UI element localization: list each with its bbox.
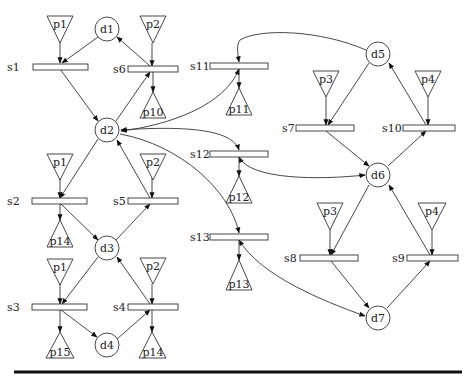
input-p3-s8[interactable]: p3 — [317, 203, 343, 230]
place-d2[interactable]: d2 — [95, 118, 119, 142]
transition-s13[interactable]: s13 — [190, 231, 268, 244]
place-label: d3 — [100, 242, 114, 255]
input-label: p3 — [319, 73, 333, 86]
arc-d4-s4 — [117, 310, 150, 339]
arc-d2-s13 — [120, 134, 239, 233]
transition-label: s9 — [392, 252, 405, 265]
output-label: p11 — [228, 103, 249, 116]
place-label: d1 — [100, 23, 114, 36]
input-label: p2 — [146, 18, 160, 31]
input-p3-s7[interactable]: p3 — [313, 71, 339, 97]
transition-label: s12 — [190, 148, 210, 161]
input-p2-s5[interactable]: p2 — [140, 154, 166, 180]
input-p4-s9[interactable]: p4 — [418, 203, 446, 230]
place-label: d6 — [371, 169, 385, 182]
transition-s2[interactable]: s2 — [7, 195, 87, 208]
arc-d3-s5 — [116, 204, 150, 240]
transition-s10[interactable]: s10 — [382, 122, 455, 135]
input-label: p1 — [53, 156, 67, 169]
output-p10-s6[interactable]: p10 — [140, 92, 166, 119]
output-label: p15 — [49, 346, 70, 359]
input-label: p2 — [146, 260, 160, 273]
output-p14-s4[interactable]: p14 — [139, 332, 166, 359]
input-label: p4 — [425, 205, 439, 218]
transition-s12[interactable]: s12 — [190, 148, 268, 161]
arc-d7-s9 — [387, 261, 430, 308]
input-p1-s3[interactable]: p1 — [47, 259, 73, 285]
output-label: p12 — [228, 191, 249, 204]
arc-s9-d6 — [389, 185, 430, 255]
arc-s1-d2 — [60, 69, 98, 121]
transition-s7[interactable]: s7 — [282, 122, 354, 135]
arc-d2-s12 — [121, 128, 239, 150]
output-p12-s12[interactable]: p12 — [226, 176, 252, 204]
place-d3[interactable]: d3 — [95, 236, 119, 260]
arc-d1-s1 — [62, 37, 98, 63]
input-label: p1 — [53, 261, 67, 274]
input-label: p4 — [421, 73, 435, 86]
transition-label: s2 — [7, 195, 20, 208]
transition-label: s6 — [113, 63, 126, 76]
transition-label: s13 — [190, 231, 210, 244]
input-p1-s2[interactable]: p1 — [47, 154, 73, 180]
arc-d6-s8 — [331, 185, 369, 255]
transition-label: s8 — [284, 252, 297, 265]
transition-label: s11 — [190, 60, 210, 73]
arc-s11-d2 — [121, 69, 239, 131]
transition-s9[interactable]: s9 — [392, 252, 458, 265]
transition-label: s4 — [113, 301, 126, 314]
place-d4[interactable]: d4 — [95, 333, 119, 357]
place-d1[interactable]: d1 — [95, 17, 119, 41]
transition-s4[interactable]: s4 — [113, 301, 178, 314]
arc-s5-d2 — [117, 140, 150, 198]
place-label: d7 — [371, 312, 385, 325]
input-p1-s1[interactable]: p1 — [47, 16, 73, 43]
arc-s12-d6 — [239, 157, 365, 178]
transition-label: s3 — [7, 301, 20, 314]
petri-net-diagram: s1 s6 s2 s5 s3 s4 s11 s12 — [0, 0, 472, 382]
input-p2-s6[interactable]: p2 — [140, 16, 166, 43]
output-label: p13 — [228, 278, 249, 291]
input-p4-s10[interactable]: p4 — [415, 71, 441, 97]
output-p15-s3[interactable]: p15 — [46, 332, 74, 359]
place-d6[interactable]: d6 — [366, 163, 390, 187]
place-label: d4 — [100, 339, 114, 352]
output-p13-s13[interactable]: p13 — [226, 260, 252, 291]
transition-s3[interactable]: s3 — [7, 301, 87, 314]
transition-label: s1 — [7, 61, 20, 74]
output-p14-s2[interactable]: p14 — [47, 220, 73, 248]
place-label: d5 — [371, 48, 385, 61]
transition-label: s7 — [282, 122, 295, 135]
arc-d6-s10 — [388, 131, 426, 166]
place-label: d2 — [100, 124, 114, 137]
transition-s11[interactable]: s11 — [190, 60, 268, 73]
input-p2-s4[interactable]: p2 — [140, 258, 166, 284]
arc-d5-s11 — [238, 33, 366, 62]
transition-s1[interactable]: s1 — [7, 61, 88, 74]
output-label: p14 — [142, 346, 163, 359]
arc-s3-d4 — [61, 310, 97, 337]
place-d5[interactable]: d5 — [366, 42, 390, 66]
arc-s13-d7 — [239, 240, 365, 316]
transition-label: s5 — [113, 195, 126, 208]
transition-s8[interactable]: s8 — [284, 252, 358, 265]
output-label: p14 — [49, 235, 70, 248]
output-p11-s11[interactable]: p11 — [226, 88, 252, 116]
transition-s6[interactable]: s6 — [113, 63, 178, 76]
arc-s8-d7 — [331, 261, 369, 308]
transition-s5[interactable]: s5 — [113, 195, 178, 208]
output-label: p10 — [142, 106, 163, 119]
arc-s6-d1 — [117, 37, 150, 66]
place-d7[interactable]: d7 — [366, 306, 390, 330]
transition-label: s10 — [382, 122, 402, 135]
arc-s7-d6 — [326, 131, 369, 166]
input-label: p3 — [323, 205, 337, 218]
input-label: p2 — [146, 156, 160, 169]
input-label: p1 — [53, 18, 67, 31]
